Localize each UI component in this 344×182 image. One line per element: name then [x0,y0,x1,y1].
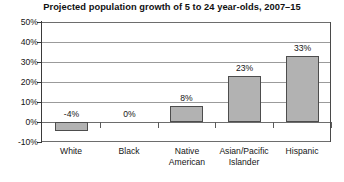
y-tick-label-20: 20% [4,78,38,87]
x-category-label-white: White [42,146,100,157]
y-tick-label-10: 10% [4,98,38,107]
x-tick-mark-5 [331,122,332,128]
x-tick-mark-3 [215,122,216,128]
x-category-label-native-american: Native American [158,146,216,168]
bar-white [55,122,88,131]
bar-value-asian-pacific-islander: 23% [221,64,268,73]
x-category-label-black: Black [100,146,158,157]
gridline-40 [42,42,331,43]
y-tick-label-neg10: -10% [4,138,38,147]
y-tick-label-0: 0% [4,118,38,127]
bar-asian-pacific-islander [228,76,261,122]
bar-native-american [170,106,203,122]
x-category-label-hispanic: Hispanic [273,146,331,157]
y-tick-label-50: 50% [4,18,38,27]
bar-value-white: -4% [48,110,95,119]
bar-value-native-american: 8% [163,94,210,103]
x-tick-mark-2 [158,122,159,128]
gridline-50 [42,22,331,23]
bar-value-black: 0% [106,110,153,119]
gridline-neg10 [42,141,331,142]
plot-area: -4% 0% 8% 23% 33% [42,22,331,142]
bar-chart: Projected population growth of 5 to 24 y… [0,0,344,182]
x-tick-mark-1 [100,122,101,128]
x-tick-mark-4 [273,122,274,128]
y-tick-label-40: 40% [4,38,38,47]
bar-hispanic [286,56,319,122]
bar-value-hispanic: 33% [279,44,326,53]
chart-title: Projected population growth of 5 to 24 y… [0,2,344,12]
y-tick-label-30: 30% [4,58,38,67]
x-category-label-asian-pacific-islander: Asian/Pacific Islander [215,146,273,168]
